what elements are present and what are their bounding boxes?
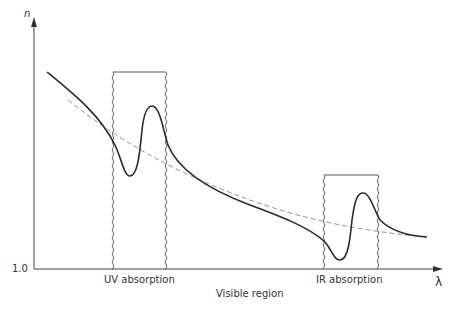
uv-absorption-box (112, 72, 167, 269)
uv-left-boundary (112, 72, 114, 269)
uv-absorption-label: UV absorption (104, 274, 175, 285)
ir-absorption-label: IR absorption (316, 274, 383, 285)
y-axis-arrow-icon (31, 17, 37, 27)
x-axis-arrow-icon (433, 266, 443, 272)
y-axis-label: n (24, 8, 30, 19)
normal-dispersion-curve (68, 100, 427, 237)
dispersion-diagram (0, 0, 457, 312)
actual-dispersion-curve (47, 72, 427, 260)
uv-right-boundary (165, 72, 167, 269)
baseline-label: 1.0 (12, 263, 28, 274)
ir-left-boundary (323, 175, 325, 269)
ir-right-boundary (377, 175, 379, 269)
x-axis-label: λ (435, 275, 442, 289)
visible-region-label: Visible region (216, 288, 283, 299)
